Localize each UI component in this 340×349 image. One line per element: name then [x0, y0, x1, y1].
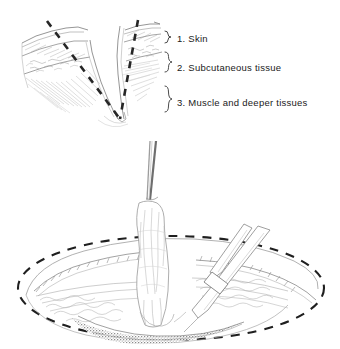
- legend-item-skin: 1. Skin: [177, 33, 208, 44]
- legend-item-muscle-and-deeper-tissues: 3. Muscle and deeper tissues: [177, 97, 308, 108]
- surgical-illustration: [0, 0, 340, 349]
- legend-item-subcutaneous-tissue: 2. Subcutaneous tissue: [177, 62, 281, 73]
